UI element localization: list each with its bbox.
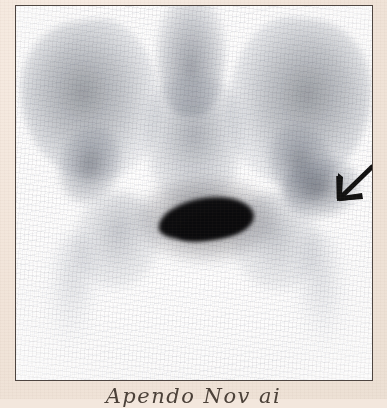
scan-frame: [15, 5, 373, 381]
urinary-bladder-uptake: [152, 192, 260, 246]
scintigram-image: [16, 6, 372, 380]
handwritten-caption: Apendo Nov ai: [0, 384, 387, 408]
